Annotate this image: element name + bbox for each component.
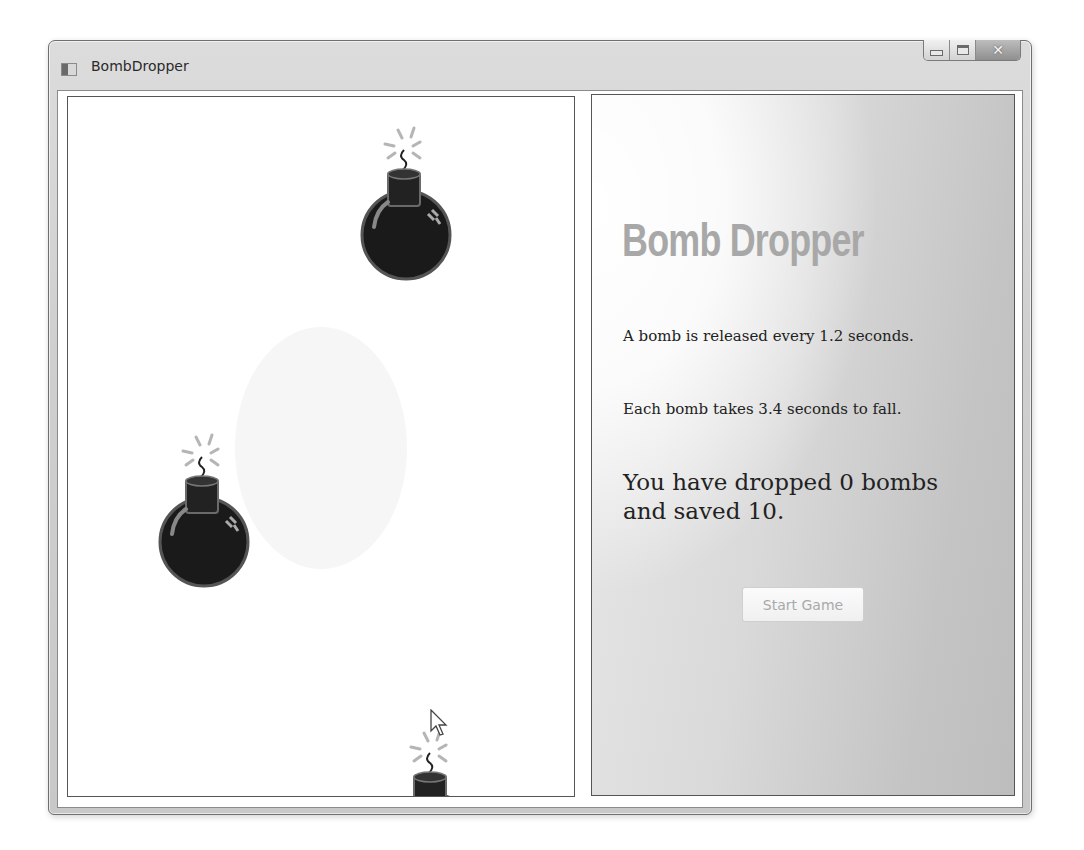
close-icon: ✕ bbox=[992, 42, 1004, 58]
game-title: Bomb Dropper bbox=[622, 213, 864, 267]
app-window: BombDropper ✕ bbox=[48, 40, 1032, 815]
release-interval-text: A bomb is released every 1.2 seconds. bbox=[623, 327, 914, 345]
bomb-icon bbox=[160, 476, 248, 586]
minimize-button[interactable] bbox=[924, 40, 950, 60]
game-canvas[interactable] bbox=[67, 96, 575, 797]
maximize-button[interactable] bbox=[950, 40, 976, 60]
spark-icon bbox=[183, 435, 218, 477]
bomb-1[interactable] bbox=[358, 122, 458, 287]
title-bar[interactable]: BombDropper ✕ bbox=[49, 41, 1031, 91]
caption-buttons: ✕ bbox=[923, 40, 1021, 61]
info-panel: Bomb Dropper A bomb is released every 1.… bbox=[591, 94, 1015, 796]
window-title: BombDropper bbox=[91, 58, 189, 74]
spark-icon bbox=[411, 731, 446, 773]
spark-icon bbox=[385, 128, 420, 170]
close-button[interactable]: ✕ bbox=[976, 40, 1020, 60]
score-text: You have dropped 0 bombs and saved 10. bbox=[623, 468, 953, 526]
maximize-icon bbox=[957, 45, 969, 55]
bomb-icon bbox=[362, 169, 450, 279]
app-icon[interactable] bbox=[61, 63, 77, 76]
fall-duration-text: Each bomb takes 3.4 seconds to fall. bbox=[623, 400, 901, 418]
faded-ellipse bbox=[235, 327, 407, 569]
client-area: Bomb Dropper A bomb is released every 1.… bbox=[57, 90, 1023, 808]
bomb-2[interactable] bbox=[156, 429, 256, 594]
bomb-icon bbox=[388, 772, 476, 797]
mouse-cursor-icon bbox=[430, 709, 450, 737]
minimize-icon bbox=[930, 50, 943, 56]
start-game-button[interactable]: Start Game bbox=[742, 587, 864, 622]
